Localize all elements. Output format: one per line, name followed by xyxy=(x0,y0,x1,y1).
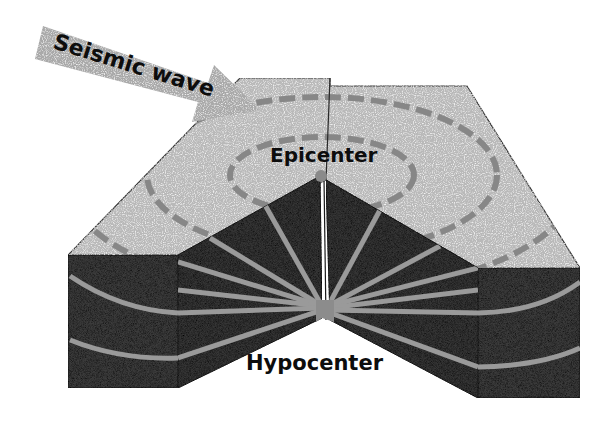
epicenter-point xyxy=(315,170,327,182)
earthquake-diagram: Seismic wave Epicenter Hypocenter xyxy=(0,0,612,426)
hypocenter-point xyxy=(316,300,334,322)
seismic-wave-arrow: Seismic wave xyxy=(35,26,260,122)
hypocenter-label: Hypocenter xyxy=(246,351,384,375)
left-front-face xyxy=(68,255,178,388)
right-front-face xyxy=(478,268,580,398)
epicenter-label: Epicenter xyxy=(270,143,378,167)
